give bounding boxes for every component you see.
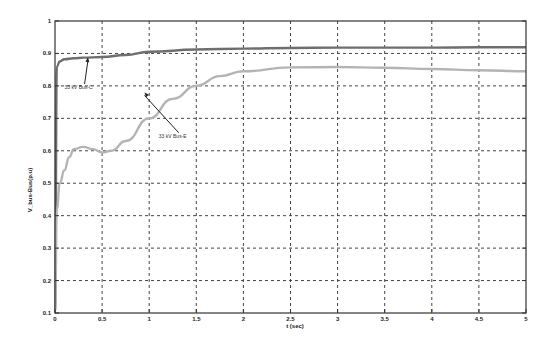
annotation-arrow — [85, 60, 88, 84]
x-tick-label: 1.5 — [192, 316, 201, 322]
y-axis-label: V_bus-Bus(p.u) — [27, 168, 33, 212]
x-tick-label: 3 — [336, 316, 340, 322]
y-tick-label: 0.1 — [43, 310, 52, 316]
grid-lines — [55, 21, 526, 313]
y-tick-label: 0.5 — [43, 180, 52, 186]
x-tick-label: 2 — [242, 316, 246, 322]
y-tick-label: 0.6 — [43, 148, 52, 154]
tick-labels: 00.511.522.533.544.550.10.20.30.40.50.60… — [43, 18, 529, 322]
x-axis-label: t (sec) — [286, 323, 304, 329]
annotation-arrow — [144, 95, 178, 132]
annotation-label: 33 kV Bus-E — [159, 133, 187, 139]
voltage-line-chart: 00.511.522.533.544.550.10.20.30.40.50.60… — [0, 0, 556, 349]
annotations: 33 kV Bus-C33 kV Bus-E — [65, 57, 188, 138]
y-tick-label: 1 — [48, 18, 52, 24]
x-tick-label: 4.5 — [475, 316, 484, 322]
x-tick-label: 0.5 — [98, 316, 107, 322]
y-tick-label: 0.2 — [43, 278, 52, 284]
x-tick-label: 1 — [148, 316, 152, 322]
y-tick-label: 0.9 — [43, 50, 52, 56]
x-tick-label: 3.5 — [381, 316, 390, 322]
x-tick-label: 0 — [53, 316, 57, 322]
x-tick-label: 2.5 — [286, 316, 295, 322]
y-tick-label: 0.4 — [43, 213, 52, 219]
x-tick-label: 5 — [524, 316, 528, 322]
y-tick-label: 0.3 — [43, 245, 52, 251]
annotation-label: 33 kV Bus-C — [65, 84, 93, 90]
y-tick-label: 0.8 — [43, 83, 52, 89]
x-tick-label: 4 — [430, 316, 434, 322]
y-tick-label: 0.7 — [43, 115, 52, 121]
